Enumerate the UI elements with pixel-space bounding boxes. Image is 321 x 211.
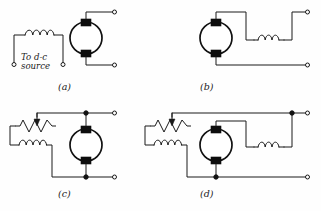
panel-d-shunt-field-coil: [154, 140, 182, 145]
panel-d-series-field-coil: [258, 142, 279, 147]
panel-d-series-to-top-bus: [284, 113, 292, 147]
panel-c-brush-top: [81, 126, 91, 133]
panel-b-brush-bottom: [211, 50, 221, 57]
panel-b-brush-top: [211, 19, 221, 26]
panel-d-armature-circle: [200, 129, 232, 161]
figure-root: To d-c source (a): [0, 0, 321, 211]
panel-a-terminal-field-left[interactable]: [12, 63, 16, 67]
panel-d-brush-top: [211, 126, 221, 133]
panel-b-motor-bottom-lead: [216, 57, 306, 65]
panel-a-brush-top: [81, 19, 91, 26]
panel-d-terminal-top[interactable]: [306, 111, 310, 115]
panel-c-rheostat-to-coil: [10, 126, 19, 145]
panel-b-terminal-bottom[interactable]: [306, 63, 310, 67]
panel-c-top-bus: [37, 113, 113, 117]
panel-c-motor: [70, 126, 102, 164]
source-label-line2: source: [21, 61, 50, 71]
panel-b-motor: [200, 19, 232, 57]
panel-d-terminal-bottom[interactable]: [306, 175, 310, 179]
panel-a-motor-top-lead: [86, 12, 113, 19]
panel-d-rheostat-to-coil: [145, 126, 154, 145]
panel-c-brush-bottom: [81, 157, 91, 164]
panel-d-rheostat-arrow-head: [169, 119, 175, 126]
panel-a-terminal-motor-bottom[interactable]: [113, 63, 117, 67]
panel-c-caption: (c): [58, 188, 71, 199]
panel-a-caption: (a): [58, 81, 71, 92]
panel-a-brush-bottom: [81, 50, 91, 57]
panel-b-series-path-right: [284, 12, 306, 40]
panel-d: (d): [145, 111, 310, 199]
panel-c-node-top: [84, 111, 88, 115]
panel-c-terminal-bottom[interactable]: [113, 175, 117, 179]
panel-c: (c): [10, 111, 117, 199]
panel-b-armature-circle: [200, 22, 232, 54]
panel-c-node-bottom: [84, 175, 88, 179]
panel-a: To d-c source (a): [12, 10, 117, 92]
panel-a-armature-circle: [70, 22, 102, 54]
panel-d-top-bus: [172, 113, 306, 117]
panel-c-rheostat-arrow-head: [34, 119, 40, 126]
circuit-diagram-svg: To d-c source (a): [0, 0, 321, 211]
panel-c-shunt-field-coil: [19, 140, 47, 145]
panel-d-motor: [200, 126, 232, 164]
panel-a-motor-bottom-lead: [86, 57, 113, 65]
panel-d-node-top: [290, 111, 294, 115]
panel-a-terminal-motor-top[interactable]: [113, 10, 117, 14]
panel-b-series-field-coil: [258, 35, 279, 40]
panel-d-brush-bottom: [211, 157, 221, 164]
panel-d-caption: (d): [200, 188, 214, 199]
panel-d-node-bottom: [214, 175, 218, 179]
panel-c-terminal-top[interactable]: [113, 111, 117, 115]
panel-b-terminal-top[interactable]: [306, 10, 310, 14]
panel-a-motor: [70, 10, 117, 67]
panel-b-caption: (b): [200, 81, 214, 92]
panel-a-terminal-field-right[interactable]: [61, 63, 65, 67]
panel-c-armature-circle: [70, 129, 102, 161]
panel-a-field-right-wire: [54, 35, 63, 63]
panel-a-field-coil: [25, 30, 54, 35]
panel-b: (b): [200, 10, 310, 92]
